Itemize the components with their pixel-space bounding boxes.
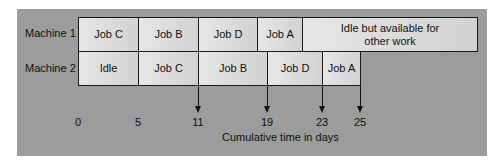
m1-idle-line-1: Idle but available for [341,22,439,35]
m1-job-b: Job B [138,17,199,52]
m2-job-d: Job D [267,51,323,86]
m2-job-b: Job B [198,51,268,86]
arrow-25-line [360,86,362,107]
row-label-machine-2: Machine 2 [25,62,76,74]
m1-job-d: Job D [198,17,258,52]
m1-idle-available: Idle but available for other work [302,17,478,52]
arrow-19-head-icon [264,106,270,113]
arrow-19-line [267,86,269,107]
m2-idle: Idle [78,51,139,86]
m1-job-c: Job C [78,17,139,52]
tick-19: 19 [261,116,273,128]
tick-5: 5 [135,116,141,128]
m2-job-c: Job C [138,51,199,86]
m1-idle-line-2: other work [364,35,415,48]
arrow-25-head-icon [357,106,363,113]
tick-11: 11 [192,116,203,128]
arrow-11-line [198,86,200,107]
m1-job-a: Job A [257,17,303,52]
row-label-machine-1: Machine 1 [25,27,76,39]
tick-0: 0 [75,116,81,128]
arrow-23-line [322,86,324,107]
x-axis-label: Cumulative time in days [222,131,339,143]
tick-25: 25 [354,116,366,128]
arrow-11-head-icon [195,106,201,113]
m2-job-a: Job A [322,51,361,86]
tick-23: 23 [316,116,328,128]
arrow-23-head-icon [319,106,325,113]
